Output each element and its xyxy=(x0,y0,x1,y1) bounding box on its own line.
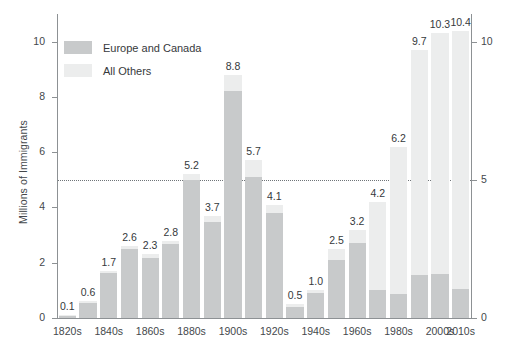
bar-value-label: 10.4 xyxy=(441,16,481,28)
bar-value-label: 3.2 xyxy=(337,215,377,227)
bar-group xyxy=(390,147,407,318)
bar-segment-all-others xyxy=(328,249,345,260)
immigration-stacked-bar-chart: Millions of Immigrants Europe and Canada… xyxy=(0,0,519,351)
bar-segment-europe-and-canada xyxy=(286,307,303,318)
bar-value-label: 0.1 xyxy=(47,300,87,312)
bar-group xyxy=(286,304,303,318)
bar-group xyxy=(411,50,428,318)
legend-label-all-others: All Others xyxy=(103,65,151,77)
y-axis-title: Millions of Immigrants xyxy=(17,102,29,242)
bar-value-label: 6.2 xyxy=(379,132,419,144)
bar-segment-europe-and-canada xyxy=(369,290,386,318)
legend-swatch-europe-and-canada xyxy=(64,41,92,54)
bar-segment-all-others xyxy=(411,50,428,275)
bar-value-label: 0.5 xyxy=(275,289,315,301)
bar-value-label: 4.2 xyxy=(358,187,398,199)
y-axis-right-tick-label: 10 xyxy=(481,35,503,47)
legend-item-all-others: All Others xyxy=(64,61,201,80)
bar-group xyxy=(431,33,448,318)
bar-segment-europe-and-canada xyxy=(452,289,469,318)
bar-group xyxy=(204,216,221,318)
y-axis-right-tick xyxy=(472,180,477,181)
bar-value-label: 4.1 xyxy=(254,190,294,202)
bar-segment-all-others xyxy=(452,31,469,289)
x-axis-tick-label: 2010s xyxy=(431,325,491,337)
legend-label-europe-and-canada: Europe and Canada xyxy=(103,42,201,54)
bar-group xyxy=(142,254,159,318)
legend-swatch-all-others xyxy=(64,64,92,77)
y-axis-left-tick xyxy=(52,97,57,98)
bar-value-label: 2.8 xyxy=(151,226,191,238)
bar-value-label: 8.8 xyxy=(213,60,253,72)
bar-group xyxy=(162,241,179,318)
bar-value-label: 2.5 xyxy=(316,234,356,246)
y-axis-left-tick-label: 4 xyxy=(23,200,45,212)
y-axis-left-tick-label: 10 xyxy=(23,35,45,47)
bar-segment-europe-and-canada xyxy=(162,244,179,318)
x-axis-line xyxy=(57,318,472,319)
bar-segment-europe-and-canada xyxy=(411,275,428,318)
bar-segment-all-others xyxy=(245,160,262,177)
bar-value-label: 3.7 xyxy=(192,201,232,213)
chart-legend: Europe and Canada All Others xyxy=(64,38,201,84)
y-axis-left-tick xyxy=(52,263,57,264)
bar-segment-all-others xyxy=(266,205,283,213)
reference-line-5 xyxy=(58,180,471,181)
y-axis-left-tick xyxy=(52,207,57,208)
legend-item-europe-and-canada: Europe and Canada xyxy=(64,38,201,57)
bar-segment-europe-and-canada xyxy=(390,294,407,317)
y-axis-left-tick-label: 0 xyxy=(23,311,45,323)
bar-group xyxy=(59,315,76,318)
bar-group xyxy=(224,75,241,318)
bar-group xyxy=(183,174,200,318)
bar-segment-europe-and-canada xyxy=(328,260,345,318)
bar-segment-europe-and-canada xyxy=(266,213,283,318)
bar-group xyxy=(245,160,262,318)
bar-value-label: 5.2 xyxy=(172,159,212,171)
y-axis-left-tick xyxy=(52,152,57,153)
bar-segment-all-others xyxy=(224,75,241,92)
y-axis-left-tick-label: 6 xyxy=(23,145,45,157)
y-axis-right-tick xyxy=(472,318,477,319)
bar-segment-europe-and-canada xyxy=(142,258,159,318)
bar-segment-all-others xyxy=(431,33,448,273)
bar-segment-all-others xyxy=(390,147,407,295)
bar-value-label: 9.7 xyxy=(399,35,439,47)
y-axis-left-line xyxy=(57,14,58,318)
bar-group xyxy=(452,31,469,318)
bar-segment-europe-and-canada xyxy=(431,274,448,318)
y-axis-right-tick-label: 0 xyxy=(481,311,503,323)
y-axis-left-tick xyxy=(52,42,57,43)
bar-segment-europe-and-canada xyxy=(349,243,366,318)
bar-value-label: 1.7 xyxy=(89,256,129,268)
y-axis-right-line xyxy=(471,14,472,318)
y-axis-left-tick-label: 2 xyxy=(23,256,45,268)
bar-segment-europe-and-canada xyxy=(59,316,76,318)
y-axis-left-tick-label: 8 xyxy=(23,90,45,102)
bar-value-label: 1.0 xyxy=(296,275,336,287)
y-axis-left-tick xyxy=(52,318,57,319)
bar-value-label: 0.6 xyxy=(68,286,108,298)
bar-value-label: 2.3 xyxy=(130,239,170,251)
y-axis-right-tick-label: 5 xyxy=(481,173,503,185)
bar-segment-europe-and-canada xyxy=(204,222,221,318)
bar-value-label: 5.7 xyxy=(234,145,274,157)
y-axis-right-tick xyxy=(472,42,477,43)
